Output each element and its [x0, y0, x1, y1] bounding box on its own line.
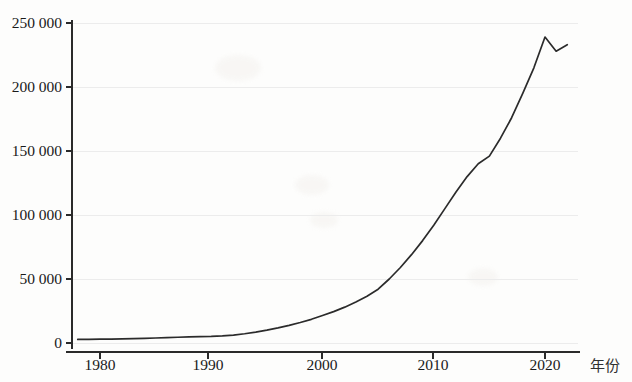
- data-line-series-1: [78, 37, 568, 339]
- y-tick-label: 150 000: [0, 143, 62, 159]
- y-axis-ticks: [66, 23, 72, 343]
- line-chart-plot: [0, 0, 632, 382]
- y-tick-label: 0: [0, 335, 62, 351]
- y-tick-label: 50 000: [0, 271, 62, 287]
- x-tick-label: 1990: [173, 356, 243, 374]
- gridlines: [72, 23, 578, 343]
- x-tick-label: 2010: [398, 356, 468, 374]
- x-tick-label: 2020: [510, 356, 580, 374]
- y-tick-label: 200 000: [0, 79, 62, 95]
- x-axis-title: 年份: [590, 357, 620, 375]
- chart-figure: 250 000 200 000 150 000 100 000 50 000 0…: [0, 0, 632, 382]
- x-tick-label: 1980: [65, 356, 135, 374]
- y-tick-label: 250 000: [0, 15, 62, 31]
- y-tick-label: 100 000: [0, 207, 62, 223]
- x-tick-label: 2000: [287, 356, 357, 374]
